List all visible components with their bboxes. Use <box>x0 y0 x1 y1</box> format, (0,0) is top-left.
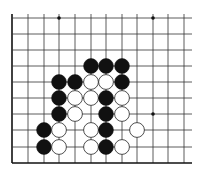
white-stone <box>84 123 99 138</box>
white-stone <box>84 140 99 155</box>
black-stone <box>52 75 67 90</box>
white-stone <box>115 91 130 106</box>
black-stone <box>84 59 99 74</box>
stones-layer <box>37 59 145 155</box>
black-stone <box>115 75 130 90</box>
white-stone <box>68 107 83 122</box>
black-stone <box>99 140 114 155</box>
star-point <box>151 16 155 20</box>
white-stone <box>68 91 83 106</box>
black-stone <box>52 91 67 106</box>
black-stone <box>99 91 114 106</box>
white-stone <box>84 91 99 106</box>
star-point <box>151 112 155 116</box>
black-stone <box>37 140 52 155</box>
black-stone <box>115 59 130 74</box>
black-stone <box>37 123 52 138</box>
black-stone <box>99 123 114 138</box>
white-stone <box>84 75 99 90</box>
white-stone <box>52 123 67 138</box>
black-stone <box>99 59 114 74</box>
white-stone <box>115 107 130 122</box>
white-stone <box>130 123 145 138</box>
white-stone <box>52 140 67 155</box>
star-point <box>57 16 61 20</box>
white-stone <box>115 140 130 155</box>
go-board <box>0 0 201 170</box>
black-stone <box>52 107 67 122</box>
black-stone <box>99 107 114 122</box>
black-stone <box>68 75 83 90</box>
white-stone <box>99 75 114 90</box>
